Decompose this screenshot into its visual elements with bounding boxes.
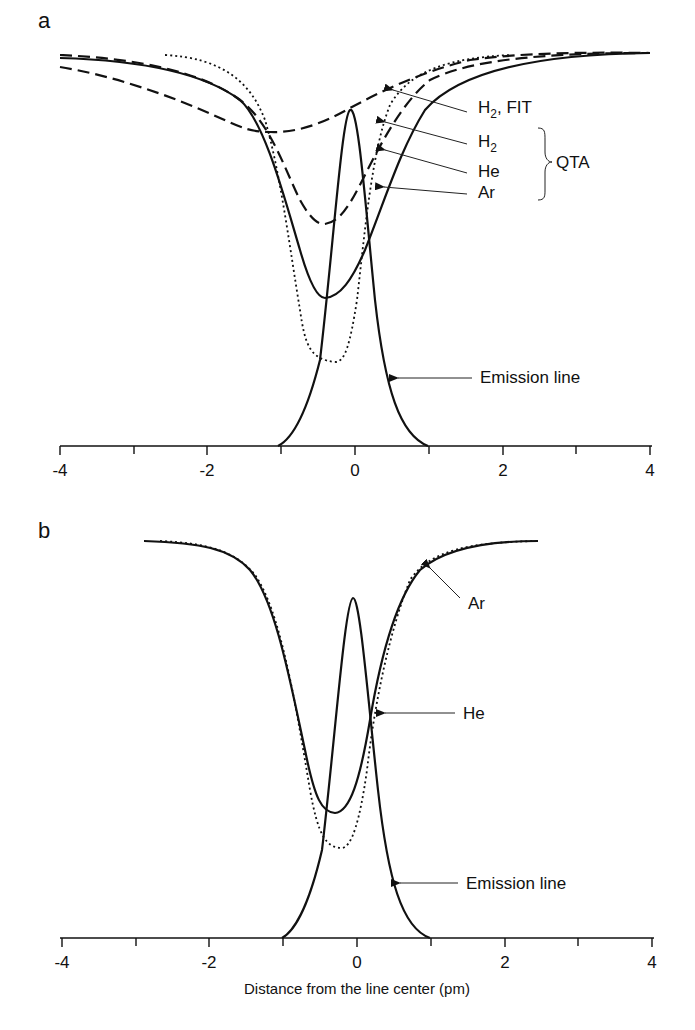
qta-brace [538, 128, 552, 200]
panel-b-label: b [38, 518, 50, 543]
arrow-ar-qta [384, 187, 467, 194]
arrow-he-qta [385, 150, 467, 173]
panel-a-tick: -2 [199, 461, 214, 480]
label-ar-b: Ar [468, 594, 485, 613]
panel-a-tick: 4 [645, 461, 654, 480]
panel-a-label: a [38, 8, 51, 33]
curve-he-qta [165, 55, 510, 362]
panel-a-tick: 2 [498, 461, 507, 480]
panel-a: a -4 -2 0 2 4 [38, 8, 655, 480]
label-ar-qta: Ar [478, 183, 495, 202]
panel-a-tick: -4 [52, 461, 67, 480]
curve-he-b [160, 541, 540, 848]
label-emission-a: Emission line [480, 368, 580, 387]
arrow-h2-fit [393, 90, 467, 112]
panel-b-tick: 0 [352, 953, 361, 972]
arrow-h2-qta [385, 122, 467, 144]
label-emission-b: Emission line [466, 874, 566, 893]
panel-b-tick: 4 [647, 953, 656, 972]
panel-a-x-axis: -4 -2 0 2 4 [52, 446, 654, 480]
x-axis-title: Distance from the line center (pm) [244, 980, 470, 997]
panel-b-tick: -2 [201, 953, 216, 972]
label-he-qta: He [478, 162, 500, 181]
curve-emission-line-a [278, 110, 428, 446]
label-h2-qta: H2 [478, 132, 497, 155]
arrow-ar-b [430, 568, 460, 598]
label-he-b: He [463, 704, 485, 723]
figure: a -4 -2 0 2 4 [0, 0, 695, 1030]
panel-b-x-axis: -4 -2 0 2 4 Distance from the line cente… [54, 938, 656, 997]
curve-h2-qta [60, 53, 650, 224]
panel-a-tick: 0 [350, 461, 359, 480]
label-qta: QTA [556, 153, 590, 172]
panel-b-tick: 2 [500, 953, 509, 972]
panel-b-tick: -4 [54, 953, 69, 972]
label-h2-fit: H2, FIT [478, 98, 532, 121]
curve-emission-line-b [282, 598, 430, 938]
panel-b: b -4 -2 0 2 4 Distance from the line cen… [38, 518, 657, 997]
